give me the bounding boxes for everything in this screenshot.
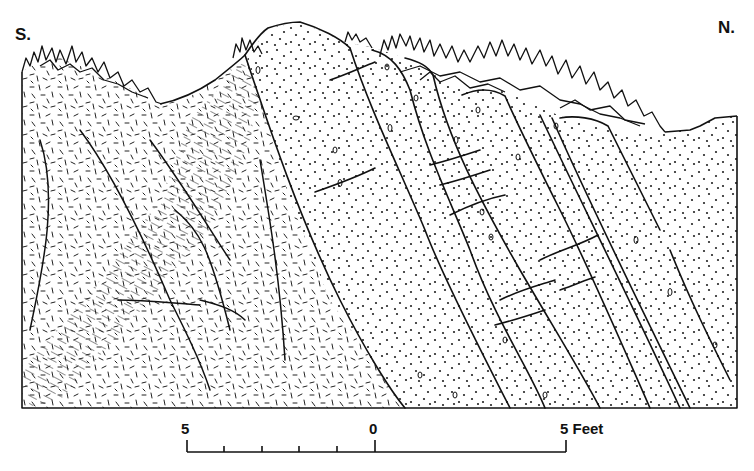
geologic-cross-section	[0, 0, 754, 471]
north-label: N.	[718, 18, 735, 38]
scale-label-right: 5 Feet	[560, 420, 603, 437]
scale-label-zero: 0	[369, 420, 377, 437]
scale-bar	[187, 440, 566, 452]
strata	[22, 20, 737, 410]
scale-label-left: 5	[181, 420, 189, 437]
south-label: S.	[15, 25, 31, 45]
cross-section-drawing	[0, 0, 754, 471]
